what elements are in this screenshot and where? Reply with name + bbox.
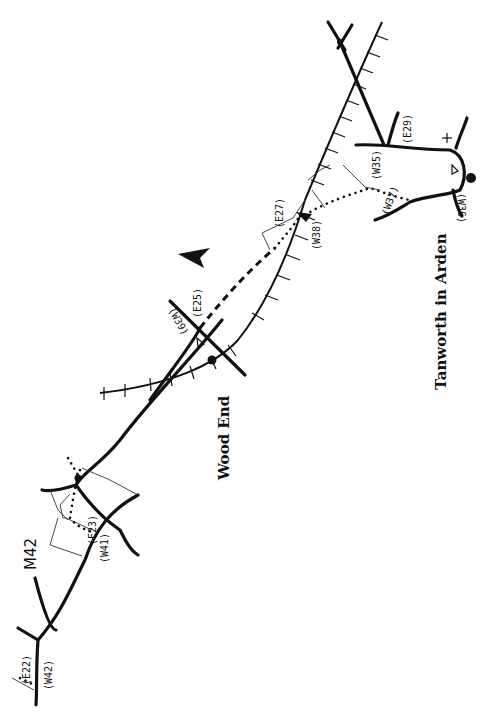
- waypoint-w38: (W38): [311, 220, 322, 250]
- place-tanworth-in-arden: Tanworth in Arden: [432, 233, 450, 390]
- route-dotted-north: [68, 458, 78, 475]
- north-arrow-icon: [178, 248, 210, 268]
- station-dot-tanworth: [466, 173, 476, 183]
- waypoint-w36: (W36): [456, 193, 467, 223]
- walk-route-map: M42: [0, 0, 497, 720]
- waypoint-e27: (E27): [274, 198, 285, 228]
- pub-triangle-icon-tanworth: [452, 165, 458, 174]
- waypoint-w35: (W35): [371, 150, 382, 180]
- waypoint-e29: (E29): [402, 114, 413, 144]
- waypoint-w42: (W42): [43, 660, 54, 690]
- waypoint-e22: (E22): [21, 655, 32, 685]
- pub-triangle-icon-wood-end: [197, 338, 204, 347]
- place-wood-end: Wood End: [215, 395, 233, 481]
- church-cross-icon: [442, 133, 452, 143]
- railway-line: [100, 22, 388, 400]
- route-w39: [150, 328, 200, 400]
- waypoint-w37: (W37): [380, 185, 401, 217]
- stile-e23: [75, 475, 82, 482]
- m42-label: M42: [22, 538, 40, 570]
- waypoint-w39: (W39): [166, 306, 191, 338]
- bridge-crossing: [328, 22, 352, 50]
- waypoint-w41: (W41): [99, 533, 110, 563]
- waypoint-e25: (E25): [192, 288, 203, 318]
- main-road: [42, 320, 222, 491]
- station-dot-wood-end: [208, 356, 217, 365]
- waypoint-e23: (E23): [87, 515, 98, 545]
- tanworth-road-north: [456, 118, 467, 148]
- road-to-bridge: [340, 42, 384, 145]
- junction-west: [18, 628, 38, 640]
- tanworth-road-e29: [388, 113, 398, 145]
- route-dashed: [200, 248, 275, 328]
